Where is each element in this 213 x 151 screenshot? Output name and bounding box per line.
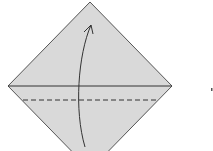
- paper-square: [8, 2, 172, 151]
- page-marker: [211, 88, 213, 91]
- origami-diagram: [0, 0, 213, 151]
